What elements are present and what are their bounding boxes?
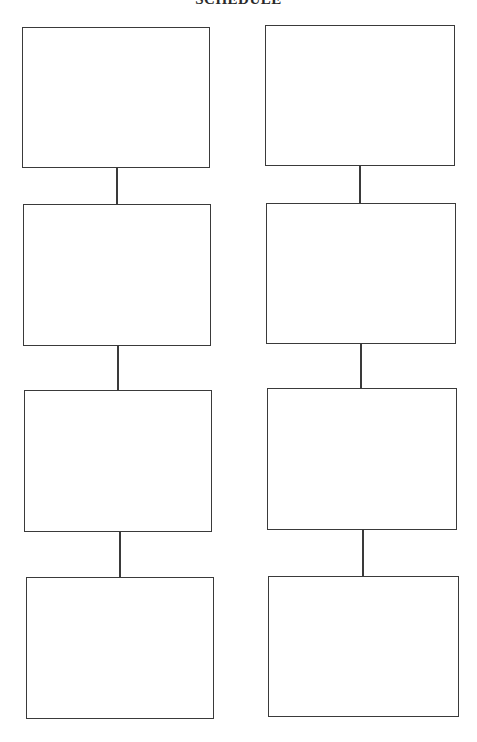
left-box-1[interactable] (22, 27, 210, 168)
left-box-4[interactable] (26, 577, 214, 719)
right-box-2[interactable] (266, 203, 456, 344)
right-box-1[interactable] (265, 25, 455, 166)
left-box-2[interactable] (23, 204, 211, 346)
right-connector-2 (360, 343, 362, 389)
right-connector-3 (362, 529, 364, 577)
left-connector-3 (119, 531, 121, 578)
right-box-4[interactable] (268, 576, 459, 717)
left-connector-1 (116, 167, 118, 205)
right-box-3[interactable] (267, 388, 457, 530)
left-box-3[interactable] (24, 390, 212, 532)
right-connector-1 (359, 165, 361, 204)
left-connector-2 (117, 345, 119, 391)
page-title: SCHEDULE (0, 0, 477, 8)
